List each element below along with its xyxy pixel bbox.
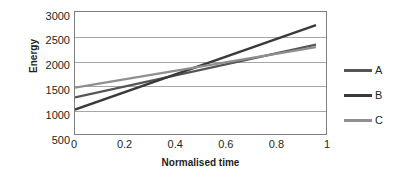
x-tick-label: 0 bbox=[54, 138, 94, 151]
legend-label: A bbox=[375, 65, 382, 76]
legend-label: C bbox=[375, 115, 383, 126]
y-axis-tick-labels: 30002500200015001000500 bbox=[26, 10, 70, 135]
y-tick-label: 3000 bbox=[26, 11, 70, 22]
x-axis-tick-labels: 00.20.40.60.81 bbox=[74, 138, 327, 154]
series-lines bbox=[75, 12, 326, 134]
x-tick-label: 0.2 bbox=[105, 138, 145, 151]
y-tick-label: 1000 bbox=[26, 110, 70, 121]
legend-label: B bbox=[375, 90, 382, 101]
legend-swatch-icon bbox=[344, 69, 372, 72]
y-tick-label: 1500 bbox=[26, 85, 70, 96]
chart-legend: ABC bbox=[344, 55, 404, 130]
y-tick-label: 2000 bbox=[26, 60, 70, 71]
x-tick-label: 0.4 bbox=[155, 138, 195, 151]
series-line-c bbox=[75, 47, 316, 88]
legend-swatch-icon bbox=[344, 94, 372, 97]
x-axis-title: Normalised time bbox=[74, 157, 327, 168]
line-chart: Energy 30002500200015001000500 00.20.40.… bbox=[0, 0, 405, 178]
legend-item-a[interactable]: A bbox=[344, 63, 382, 77]
y-tick-label: 2500 bbox=[26, 35, 70, 46]
legend-item-b[interactable]: B bbox=[344, 88, 382, 102]
x-tick-label: 0.8 bbox=[256, 138, 296, 151]
x-tick-label: 1 bbox=[307, 138, 347, 151]
plot-area bbox=[74, 11, 327, 135]
legend-item-c[interactable]: C bbox=[344, 113, 383, 127]
legend-swatch-icon bbox=[344, 119, 372, 122]
x-tick-label: 0.6 bbox=[206, 138, 246, 151]
